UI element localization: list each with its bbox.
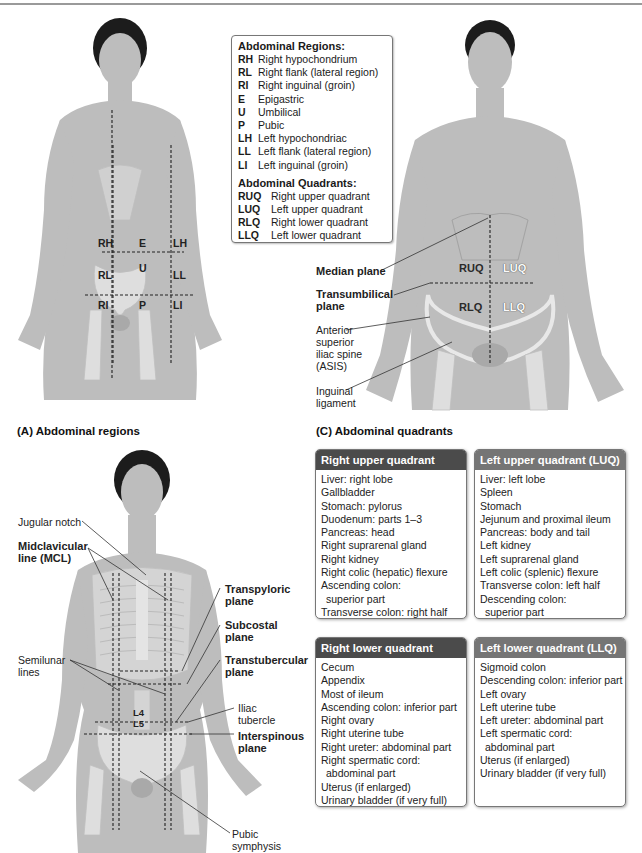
- callout-subcostal-2: plane: [225, 631, 254, 643]
- list-item: Spleen: [480, 486, 620, 499]
- figure-b-plane-lines: [0, 440, 310, 853]
- list-item: Stomach: pylorus: [321, 500, 461, 513]
- region-label-u: U: [139, 262, 147, 274]
- region-label-rh: RH: [98, 237, 113, 249]
- region-label-e: E: [139, 237, 146, 249]
- list-item: Jejunum and proximal ileum: [480, 513, 620, 526]
- figure-c-caption: (C) Abdominal quadrants: [316, 425, 453, 437]
- region-label-rl: RL: [98, 269, 112, 281]
- list-item: Duodenum: parts 1–3: [321, 513, 461, 526]
- table-rlq-header: Right lower quadrant (RLQ): [316, 638, 466, 658]
- callout-pubic-1: Pubic: [232, 828, 258, 840]
- list-item: Most of ileum: [321, 688, 461, 701]
- quadrant-label-llq: LLQ: [503, 301, 525, 313]
- list-item: Stomach: [480, 500, 620, 513]
- list-item: Pancreas: body and tail: [480, 526, 620, 539]
- table-llq: Left lower quadrant (LLQ) Sigmoid colon …: [474, 637, 626, 807]
- callout-transumbilical-1: Transumbilical: [316, 288, 393, 300]
- table-ruq-header: Right upper quadrant (RUQ): [316, 450, 466, 470]
- list-item: Uterus (if enlarged): [480, 754, 620, 767]
- list-item: Right spermatic cord:: [321, 754, 461, 767]
- list-item: Left suprarenal gland: [480, 553, 620, 566]
- callout-transtubercular-1: Transtubercular: [225, 654, 308, 666]
- callout-transpyloric-1: Transpyloric: [225, 583, 290, 595]
- table-rlq-list: Cecum Appendix Most of ileum Ascending c…: [316, 658, 466, 807]
- figure-c-plane-lines: [300, 0, 642, 430]
- callout-semilunar-2: lines: [18, 666, 40, 678]
- quadrant-label-ruq: RUQ: [459, 262, 483, 274]
- callout-transpyloric-2: plane: [225, 595, 254, 607]
- quadrant-label-luq: LUQ: [503, 262, 526, 274]
- list-item: superior part: [480, 606, 620, 619]
- callout-semilunar-1: Semilunar: [18, 654, 65, 666]
- list-item: Left spermatic cord:: [480, 727, 620, 740]
- list-item: Gallbladder: [321, 486, 461, 499]
- callout-mcl-2: line (MCL): [18, 552, 71, 564]
- callout-subcostal-1: Subcostal: [225, 619, 278, 631]
- callout-asis-3: iliac spine: [316, 348, 362, 360]
- list-item: Right colic (hepatic) flexure: [321, 566, 461, 579]
- list-item: Left uterine tube: [480, 701, 620, 714]
- region-label-ri: RI: [98, 299, 109, 311]
- region-label-ll: LL: [173, 269, 186, 281]
- table-ruq-list: Liver: right lobe Gallbladder Stomach: p…: [316, 470, 466, 619]
- table-luq: Left upper quadrant (LUQ) Liver: left lo…: [474, 449, 626, 619]
- quadrant-label-rlq: RLQ: [459, 301, 482, 313]
- table-luq-header: Left upper quadrant (LUQ): [475, 450, 625, 470]
- callout-median-plane: Median plane: [316, 265, 386, 277]
- callout-asis-2: superior: [316, 336, 354, 348]
- vertebra-label-l5: L5: [133, 718, 144, 730]
- list-item: Right suprarenal gland: [321, 539, 461, 552]
- list-item: Liver: right lobe: [321, 473, 461, 486]
- list-item: abdominal part: [321, 767, 461, 780]
- table-llq-list: Sigmoid colon Descending colon: inferior…: [475, 658, 625, 785]
- callout-mcl-1: Midclavicular: [18, 540, 88, 552]
- callout-interspinous-2: plane: [238, 742, 267, 754]
- callout-transtubercular-2: plane: [225, 666, 254, 678]
- figure-a-caption: (A) Abdominal regions: [17, 425, 140, 437]
- callout-iliac-2: tubercle: [238, 714, 275, 726]
- list-item: Transverse colon: right half: [321, 606, 461, 619]
- list-item: Right ovary: [321, 714, 461, 727]
- table-llq-header: Left lower quadrant (LLQ): [475, 638, 625, 658]
- list-item: Pancreas: head: [321, 526, 461, 539]
- callout-inguinal-2: ligament: [316, 397, 356, 409]
- list-item: Left colic (splenic) flexure: [480, 566, 620, 579]
- table-ruq: Right upper quadrant (RUQ) Liver: right …: [315, 449, 467, 619]
- callout-interspinous-1: Interspinous: [238, 730, 304, 742]
- table-luq-list: Liver: left lobe Spleen Stomach Jejunum …: [475, 470, 625, 619]
- callout-asis-1: Anterior: [316, 324, 353, 336]
- callout-inguinal-1: Inguinal: [316, 385, 353, 397]
- callout-asis-4: (ASIS): [316, 360, 347, 372]
- list-item: Left ureter: abdominal part: [480, 714, 620, 727]
- list-item: Sigmoid colon: [480, 661, 620, 674]
- list-item: Urinary bladder (if very full): [321, 794, 461, 807]
- figure-a-region-lines: [0, 0, 240, 420]
- callout-transumbilical-2: plane: [316, 300, 345, 312]
- list-item: Uterus (if enlarged): [321, 781, 461, 794]
- callout-iliac-1: Iliac: [238, 702, 257, 714]
- list-item: Liver: left lobe: [480, 473, 620, 486]
- list-item: Left ovary: [480, 688, 620, 701]
- list-item: Ascending colon:: [321, 579, 461, 592]
- list-item: Right uterine tube: [321, 727, 461, 740]
- list-item: Left kidney: [480, 539, 620, 552]
- list-item: Appendix: [321, 674, 461, 687]
- list-item: Right kidney: [321, 553, 461, 566]
- list-item: superior part: [321, 593, 461, 606]
- list-item: Cecum: [321, 661, 461, 674]
- callout-pubic-2: symphysis: [232, 840, 281, 852]
- table-rlq: Right lower quadrant (RLQ) Cecum Appendi…: [315, 637, 467, 807]
- region-label-li: LI: [173, 299, 182, 311]
- region-label-p: P: [139, 299, 146, 311]
- region-label-lh: LH: [173, 237, 187, 249]
- list-item: Ascending colon: inferior part: [321, 701, 461, 714]
- callout-jugular-notch: Jugular notch: [18, 516, 81, 528]
- list-item: Right ureter: abdominal part: [321, 741, 461, 754]
- list-item: Urinary bladder (if very full): [480, 767, 620, 780]
- list-item: Transverse colon: left half: [480, 579, 620, 592]
- list-item: Descending colon:: [480, 593, 620, 606]
- list-item: Descending colon: inferior part: [480, 674, 620, 687]
- list-item: abdominal part: [480, 741, 620, 754]
